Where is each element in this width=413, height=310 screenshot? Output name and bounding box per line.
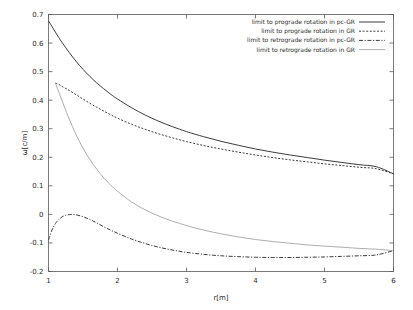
- y-tick-label: 0: [39, 211, 43, 219]
- plot-canvas: -0.2-0.100.10.20.30.40.50.60.7 123456 r[…: [0, 0, 413, 310]
- chart-figure: -0.2-0.100.10.20.30.40.50.60.7 123456 r[…: [0, 0, 413, 310]
- legend-label-1: limit to prograde rotation in GR: [261, 27, 355, 35]
- y-tick-label: 0.3: [32, 125, 43, 133]
- x-tick-label: 4: [253, 277, 258, 285]
- x-tick-label: 6: [391, 277, 396, 285]
- y-tick-label: 0.7: [32, 11, 43, 19]
- x-tick-label: 1: [46, 277, 50, 285]
- y-tick-label: 0.2: [32, 154, 43, 162]
- y-axis-title: ω[c/m]: [21, 131, 29, 156]
- y-tick-label: -0.2: [30, 268, 44, 276]
- x-tick-label: 2: [115, 277, 119, 285]
- x-tick-label: 3: [184, 277, 188, 285]
- legend-label-0: limit to prograde rotation in pc-GR: [252, 18, 355, 26]
- legend-label-2: limit to retrograde rotation in pc-GR: [247, 36, 355, 44]
- y-tick-label: 0.6: [32, 40, 44, 48]
- y-tick-label: 0.4: [32, 97, 44, 105]
- x-axis-title: r[m]: [213, 294, 228, 302]
- x-tick-label: 5: [322, 277, 326, 285]
- y-tick-label: 0.1: [32, 182, 43, 190]
- legend-label-3: limit to retrograde rotation in GR: [257, 46, 355, 54]
- y-tick-label: 0.5: [32, 68, 43, 76]
- y-tick-label: -0.1: [30, 239, 44, 247]
